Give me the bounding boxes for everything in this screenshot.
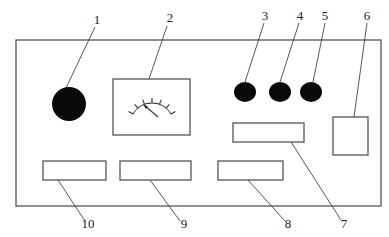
indicator-5 xyxy=(300,82,322,102)
meter-box-2 xyxy=(113,79,190,135)
dial-tick xyxy=(129,112,133,115)
leader-line-9 xyxy=(150,180,180,221)
callout-label-1: 1 xyxy=(94,12,101,27)
indicator-4 xyxy=(269,82,291,102)
leader-line-8 xyxy=(248,180,285,221)
panel-diagram: 12345678910 xyxy=(0,0,389,237)
callout-label-4: 4 xyxy=(297,8,304,23)
leader-line-10 xyxy=(58,180,85,221)
leader-line-2 xyxy=(149,26,167,79)
indicator-3 xyxy=(234,82,256,102)
leader-line-3 xyxy=(245,23,264,82)
callout-label-6: 6 xyxy=(364,8,371,23)
dial-tick xyxy=(143,100,145,105)
leader-lines xyxy=(58,23,367,221)
dial-tick xyxy=(166,104,169,108)
panel-components xyxy=(43,79,368,180)
leader-line-4 xyxy=(280,23,299,82)
panel-outline xyxy=(16,40,381,206)
callout-label-8: 8 xyxy=(285,216,292,231)
knob-1 xyxy=(52,87,86,121)
callout-label-10: 10 xyxy=(82,216,95,231)
leader-line-5 xyxy=(313,23,325,82)
box-6 xyxy=(333,117,368,155)
meter-dial-icon xyxy=(129,98,176,117)
dial-tick xyxy=(171,112,175,115)
box-7 xyxy=(233,123,304,142)
leader-line-1 xyxy=(66,27,95,88)
callout-label-9: 9 xyxy=(181,216,188,231)
callout-label-7: 7 xyxy=(341,216,348,231)
callout-label-2: 2 xyxy=(167,10,174,25)
callout-label-5: 5 xyxy=(322,8,329,23)
box-8 xyxy=(218,161,283,180)
box-10 xyxy=(43,161,106,180)
dial-tick xyxy=(160,100,162,105)
leader-line-6 xyxy=(354,23,367,117)
box-9 xyxy=(120,161,191,180)
callout-label-3: 3 xyxy=(262,8,269,23)
callout-labels: 12345678910 xyxy=(82,8,371,231)
dial-tick xyxy=(135,104,138,108)
